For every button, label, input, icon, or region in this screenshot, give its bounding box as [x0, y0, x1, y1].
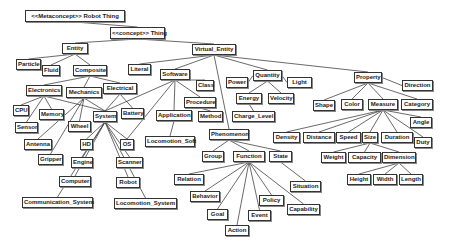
- node-virtual-entity: Virtual_Entity: [192, 44, 236, 55]
- edge-measure-distance: [319, 110, 383, 132]
- node-size: Size: [362, 132, 378, 143]
- node-function: Function: [233, 151, 265, 162]
- edge-state-situation: [281, 162, 306, 181]
- node-memory: Memory: [39, 109, 64, 120]
- node-speed: Speed: [336, 132, 361, 143]
- node-quantity: Quantity: [253, 70, 282, 81]
- node-category: Category: [401, 99, 433, 110]
- node-procedure: Procedure: [184, 97, 216, 108]
- node-electronics: Electronics: [26, 85, 62, 96]
- edge-electrical-system: [105, 94, 120, 111]
- edge-measure-speed: [349, 110, 384, 132]
- node-height: Height: [347, 174, 371, 185]
- node-computer: Computer: [59, 176, 91, 187]
- edge-virtual_entity-property: [214, 55, 368, 72]
- edge-dimension-height: [359, 163, 399, 174]
- edge-software-application: [174, 80, 175, 110]
- edge-dimension-length: [399, 163, 411, 174]
- node-locomotion-system: Locomotion_System: [114, 198, 177, 209]
- edge-application-locomotion_soft: [170, 121, 174, 136]
- node-action: Action: [225, 225, 249, 236]
- node-goal: Goal: [207, 209, 228, 220]
- node-direction: Direction: [402, 80, 433, 91]
- node-wheel: Wheel: [68, 121, 91, 132]
- node-energy: Energy: [236, 93, 262, 104]
- edge-virtual_entity-quantity: [214, 55, 268, 70]
- node-class: Class: [196, 80, 214, 91]
- edge-property-color: [352, 83, 368, 99]
- node-metaconcept: <<Metaconcept>> Robot Thing: [25, 10, 125, 22]
- node-shape: Shape: [313, 100, 335, 111]
- node-density: Density: [273, 132, 300, 143]
- edge-size-dimension: [370, 143, 399, 152]
- node-locomotion-soft: Locomotion_Soft: [145, 136, 195, 147]
- node-color: Color: [341, 99, 363, 110]
- node-event: Event: [248, 210, 271, 221]
- edge-virtual_entity-literal: [140, 55, 215, 64]
- node-dimension: Dimension: [382, 152, 416, 163]
- node-width: Width: [373, 174, 397, 185]
- node-state: State: [269, 151, 292, 162]
- node-measure: Measure: [368, 99, 398, 110]
- edge-size-weight: [334, 143, 371, 152]
- node-application: Application: [156, 110, 192, 121]
- node-software: Software: [160, 69, 190, 80]
- node-particle: Particle: [16, 59, 41, 70]
- edge-quantity-velocity: [268, 81, 282, 93]
- node-thing: <<concept>> Thing: [110, 27, 165, 39]
- node-duration: Duration: [381, 132, 413, 143]
- node-weight: Weight: [321, 152, 346, 163]
- edge-energy-charge_level: [249, 104, 254, 111]
- edge-measure-duration: [383, 110, 397, 132]
- edge-mechanics-system: [84, 98, 105, 111]
- node-composite: Composite: [73, 65, 107, 76]
- node-group: Group: [202, 151, 224, 162]
- node-behavior: Behavior: [190, 191, 220, 202]
- node-relation: Relation: [174, 174, 204, 185]
- edge-phenomenon-group: [213, 140, 229, 151]
- edge-entity-composite: [75, 54, 90, 65]
- node-angle: Angle: [410, 117, 432, 128]
- node-power: Power: [226, 77, 248, 88]
- node-system: System: [93, 111, 117, 122]
- node-hd: HD: [80, 139, 93, 150]
- node-length: Length: [399, 174, 423, 185]
- node-engine: Engine: [71, 157, 93, 168]
- node-duty: Duty: [414, 137, 432, 148]
- node-fluid: Fluid: [42, 65, 60, 76]
- edge-electrical-battery: [120, 94, 133, 108]
- node-policy: Policy: [259, 195, 284, 206]
- node-phenomenon: Phenomenon: [209, 129, 249, 140]
- node-capacity: Capacity: [348, 152, 381, 163]
- node-distance: Distance: [303, 132, 335, 143]
- edge-quantity-energy: [249, 81, 268, 93]
- node-method: Method: [198, 111, 223, 122]
- node-antenna: Antenna: [24, 139, 52, 150]
- node-electrical: Electrical: [103, 83, 137, 94]
- node-scanner: Scanner: [116, 157, 143, 168]
- node-situation: Situation: [290, 181, 321, 192]
- node-capability: Capability: [287, 204, 320, 215]
- node-communication-system: Communication_System: [22, 197, 93, 208]
- ontology-diagram: <<Metaconcept>> Robot Thing<<concept>> T…: [0, 0, 449, 247]
- node-mechanics: Mechanics: [66, 87, 102, 98]
- edge-composite-mechanics: [84, 76, 90, 87]
- node-sensor: Sensor: [15, 122, 38, 133]
- node-light: Light: [287, 77, 312, 88]
- edge-measure-density: [287, 110, 384, 132]
- node-property: Property: [354, 72, 382, 83]
- edge-measure-size: [370, 110, 383, 132]
- edge-composite-electrical: [90, 76, 120, 83]
- node-velocity: Velocity: [268, 93, 294, 104]
- node-charge-level: Charge_Level: [232, 111, 275, 122]
- edge-property-direction: [382, 78, 402, 86]
- node-robot: Robot: [116, 177, 140, 188]
- node-literal: Literal: [128, 64, 151, 75]
- edge-phenomenon-function: [229, 140, 249, 151]
- edge-property-shape: [324, 83, 368, 100]
- node-gripper: Gripper: [38, 154, 63, 165]
- node-entity: Entity: [62, 43, 88, 54]
- edge-composite-electronics: [44, 76, 90, 85]
- node-cpu: CPU: [13, 105, 29, 116]
- node-os: OS: [120, 139, 134, 150]
